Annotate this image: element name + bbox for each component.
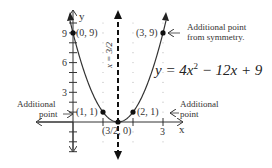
point-label-3-9: (3, 9) bbox=[136, 27, 158, 39]
curve-arrow-right bbox=[162, 12, 169, 21]
point-marker bbox=[160, 30, 165, 35]
point-marker bbox=[70, 30, 75, 35]
point-marker bbox=[100, 110, 105, 115]
parabola-chart: y x 9 6 3 3 x = 3/2 (0, 9) (1, 1) (3/2, … bbox=[0, 0, 272, 168]
y-tick-label-3: 3 bbox=[62, 87, 67, 98]
y-tick-label-6: 6 bbox=[62, 57, 67, 68]
annotation-symmetry-line1: Additional point bbox=[187, 22, 247, 32]
equation-prefix: y = 4x bbox=[153, 62, 194, 78]
annotation-left-line2: point bbox=[39, 109, 58, 119]
point-label-vertex: (3/2, 0) bbox=[102, 125, 131, 137]
point-marker bbox=[115, 119, 120, 124]
annotation-symmetry-line2: from symmetry. bbox=[187, 32, 244, 42]
x-tick-label-3: 3 bbox=[160, 126, 165, 137]
y-axis-label: y bbox=[79, 10, 85, 22]
annotation-right-line1: Additional bbox=[180, 99, 219, 109]
annotation-left-line1: Additional bbox=[17, 99, 56, 109]
point-label-0-9: (0, 9) bbox=[76, 27, 98, 39]
point-label-1-1: (1, 1) bbox=[76, 106, 98, 118]
equation-label: y = 4x2 − 12x + 9 bbox=[153, 61, 263, 78]
annotation-right-line2: point bbox=[180, 109, 199, 119]
point-label-2-1: (2, 1) bbox=[137, 106, 159, 118]
symmetry-arrow-up bbox=[114, 10, 122, 19]
x-axis-label: x bbox=[179, 123, 185, 135]
equation-suffix: − 12x + 9 bbox=[198, 62, 263, 78]
point-marker bbox=[130, 110, 135, 115]
symmetry-arrow-down bbox=[114, 151, 122, 160]
axis-of-symmetry-label: x = 3/2 bbox=[104, 41, 114, 69]
y-tick-label-9: 9 bbox=[62, 28, 67, 39]
